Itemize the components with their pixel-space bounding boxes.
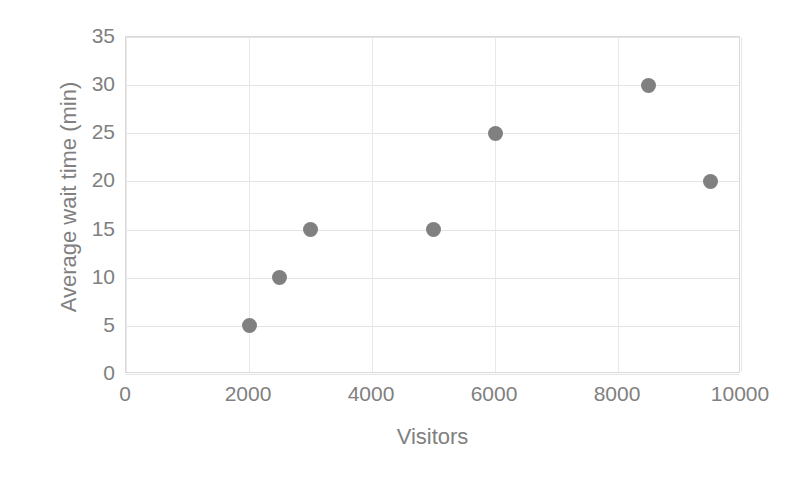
data-point bbox=[488, 126, 503, 141]
gridline-v-10000 bbox=[741, 37, 742, 372]
gridline-h-5 bbox=[126, 326, 739, 327]
x-tick-label: 10000 bbox=[711, 382, 769, 406]
y-axis-title: Average wait time (min) bbox=[57, 42, 81, 352]
plot-area bbox=[125, 36, 740, 373]
gridline-h-35 bbox=[126, 37, 739, 38]
data-point bbox=[303, 222, 318, 237]
y-tick-label: 25 bbox=[92, 121, 115, 142]
x-axis-tick-labels: 0200040006000800010000 bbox=[125, 382, 740, 412]
y-tick-label: 30 bbox=[92, 73, 115, 94]
x-tick-label: 4000 bbox=[348, 382, 395, 406]
x-tick-label: 2000 bbox=[225, 382, 272, 406]
gridline-v-6000 bbox=[495, 37, 496, 372]
y-tick-label: 35 bbox=[92, 25, 115, 46]
x-axis-title: Visitors bbox=[125, 425, 740, 449]
gridline-v-8000 bbox=[618, 37, 619, 372]
gridline-h-0 bbox=[126, 374, 739, 375]
gridline-v-4000 bbox=[372, 37, 373, 372]
data-point bbox=[272, 270, 287, 285]
x-tick-label: 8000 bbox=[594, 382, 641, 406]
gridline-h-25 bbox=[126, 133, 739, 134]
gridline-h-20 bbox=[126, 181, 739, 182]
y-tick-label: 0 bbox=[103, 362, 115, 383]
gridline-h-10 bbox=[126, 278, 739, 279]
y-tick-label: 10 bbox=[92, 266, 115, 287]
x-tick-label: 0 bbox=[119, 382, 131, 406]
x-tick-label: 6000 bbox=[471, 382, 518, 406]
gridline-v-0 bbox=[126, 37, 127, 372]
y-tick-label: 15 bbox=[92, 218, 115, 239]
scatter-chart: 05101520253035 0200040006000800010000 Av… bbox=[0, 0, 786, 487]
data-point bbox=[703, 174, 718, 189]
data-point bbox=[426, 222, 441, 237]
y-tick-label: 20 bbox=[92, 169, 115, 190]
data-point bbox=[242, 318, 257, 333]
y-tick-label: 5 bbox=[103, 314, 115, 335]
data-point bbox=[641, 78, 656, 93]
